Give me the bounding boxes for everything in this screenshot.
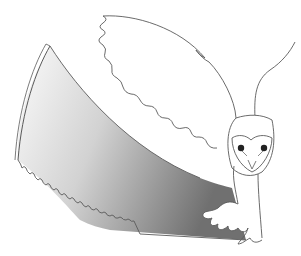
upper-wing-outline [103, 16, 236, 118]
raised-wing [255, 42, 295, 118]
left-eye [238, 145, 244, 151]
owl-head [228, 115, 274, 175]
body-right-edge [258, 174, 262, 238]
illustration-canvas: barn owl with saw-blade wing [0, 0, 301, 256]
right-eye [261, 145, 267, 151]
